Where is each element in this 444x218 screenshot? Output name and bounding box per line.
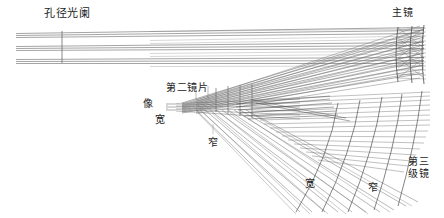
- label-third-stage-line2: 级镜: [408, 168, 429, 180]
- label-third-stage-mirror: 第三 级镜: [408, 156, 429, 179]
- raytrace-figure: 孔径光阑 主镜 第二镜片 像 宽 窄 宽 窄 第三 级镜: [0, 0, 444, 218]
- label-third-stage-line1: 第三: [408, 156, 429, 168]
- label-image: 像: [143, 98, 154, 110]
- lower-ray-fan: [196, 110, 418, 212]
- third-stage-arc-1: [296, 103, 338, 212]
- fan-horizontal-rays: [250, 92, 430, 172]
- label-primary-mirror: 主镜: [392, 7, 413, 19]
- third-stage-arc-3: [348, 97, 382, 212]
- label-narrow-2: 窄: [368, 182, 379, 194]
- lower-ray-fan-secondary: [198, 113, 412, 214]
- label-wide-1: 宽: [155, 114, 166, 126]
- label-wide-2: 宽: [305, 178, 316, 190]
- label-second-mirror: 第二镜片: [166, 82, 208, 94]
- label-aperture-stop: 孔径光阑: [44, 8, 90, 21]
- label-narrow-1: 窄: [208, 137, 219, 149]
- incoming-beam-top: [16, 28, 424, 38]
- incoming-beam-middle: [16, 43, 424, 51]
- image-waist: [167, 103, 176, 111]
